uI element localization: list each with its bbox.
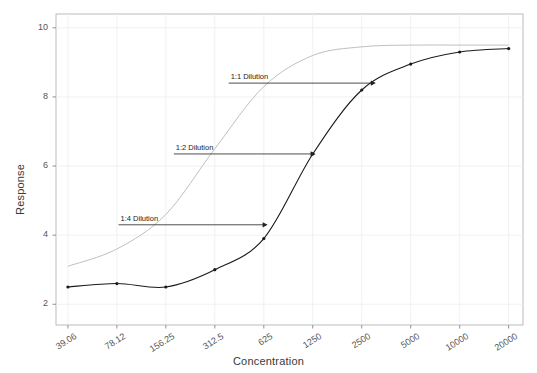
y-tick-label: 2 [16,298,48,308]
y-tick-label: 10 [16,22,48,32]
y-tick-label: 6 [16,160,48,170]
chart-plot-area [0,0,537,373]
chart-container: Concentration Response 39.0678.12156.253… [0,0,537,373]
y-tick-label: 8 [16,91,48,101]
y-axis-title: Response [14,164,26,215]
annotation-label: 1:2 Dilution [176,143,214,152]
annotation-label: 1:1 Dilution [231,72,269,81]
y-tick-label: 4 [16,229,48,239]
annotation-label: 1:4 Dilution [121,214,159,223]
